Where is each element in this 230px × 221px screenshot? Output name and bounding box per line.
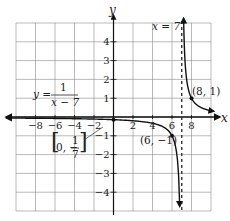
- equation-lhs: y =: [32, 88, 51, 100]
- x-tick-label: 6: [169, 120, 175, 131]
- right-branch-curve: [184, 18, 214, 111]
- curves: [6, 18, 214, 206]
- y-tick-label: −2: [95, 149, 110, 160]
- y-intercept-denominator: 7: [72, 148, 79, 160]
- y-tick-label: −4: [95, 187, 110, 198]
- axes: [6, 15, 220, 215]
- x-axis-label: x: [221, 111, 228, 125]
- y-tick-label: 2: [103, 74, 109, 85]
- close-bracket: ]: [79, 129, 88, 154]
- x-tick-label: 2: [130, 120, 136, 131]
- x-tick-label: 4: [149, 120, 155, 131]
- point-label-8-1: (8, 1): [192, 85, 220, 97]
- y-tick-label: 3: [103, 55, 109, 66]
- left-branch-curve: [6, 118, 179, 206]
- x-tick-label: −8: [28, 120, 43, 131]
- x-tick-label: 8: [188, 120, 194, 131]
- y-axis-label: y: [108, 3, 116, 17]
- y-tick-label: −1: [95, 130, 110, 141]
- y-tick-label: 4: [103, 36, 109, 47]
- equation-denominator: x − 7: [51, 96, 79, 108]
- y-tick-label: 1: [103, 93, 109, 104]
- equation-numerator: 1: [60, 81, 67, 93]
- function-graph: −8−6−4−22468−4−3−2−11234 x y y = 1 x − 7…: [0, 0, 230, 221]
- point-label-6-neg1: (6, −1): [140, 134, 177, 146]
- asymptote-label: x = 7: [152, 20, 180, 32]
- data-point: [112, 118, 116, 122]
- equation-label: y = 1 x − 7: [32, 81, 79, 108]
- y-tick-label: −3: [95, 168, 110, 179]
- y-intercept-numerator: 1: [72, 134, 79, 146]
